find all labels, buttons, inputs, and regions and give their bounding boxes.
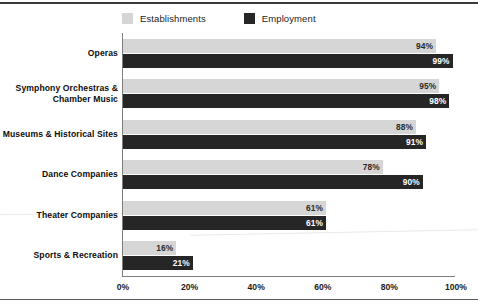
bar-establishments[interactable]: 95% bbox=[123, 79, 439, 93]
bar-slot: 95% bbox=[123, 79, 456, 93]
page-rule-bottom bbox=[0, 299, 478, 300]
x-tick-20pct: 20% bbox=[181, 282, 198, 292]
bar-group: 94%99% bbox=[123, 33, 456, 74]
bar-slot: 61% bbox=[123, 216, 456, 230]
category-label: Sports & Recreation bbox=[0, 236, 118, 277]
bar-slot: 99% bbox=[123, 54, 456, 68]
chart-legend: Establishments Employment bbox=[122, 13, 316, 24]
bar-slot: 94% bbox=[123, 39, 456, 53]
x-tick-80pct: 80% bbox=[381, 282, 398, 292]
chart-row: Operas94%99% bbox=[0, 33, 478, 74]
bar-group: 61%61% bbox=[123, 195, 456, 236]
bar-employment[interactable]: 99% bbox=[123, 54, 453, 68]
bar-employment[interactable]: 61% bbox=[123, 216, 326, 230]
x-axis-line bbox=[122, 276, 455, 277]
bar-value-label: 88% bbox=[396, 122, 416, 132]
chart-row: Dance Companies78%90% bbox=[0, 155, 478, 196]
bar-establishments[interactable]: 94% bbox=[123, 39, 436, 53]
category-label: Theater Companies bbox=[0, 195, 118, 236]
bar-establishments[interactable]: 78% bbox=[123, 160, 383, 174]
bar-value-label: 78% bbox=[363, 162, 383, 172]
bar-group: 78%90% bbox=[123, 155, 456, 196]
bar-slot: 88% bbox=[123, 120, 456, 134]
x-tick-40pct: 40% bbox=[248, 282, 265, 292]
bar-group: 88%91% bbox=[123, 114, 456, 155]
bar-slot: 78% bbox=[123, 160, 456, 174]
x-tick-60pct: 60% bbox=[314, 282, 331, 292]
bar-value-label: 61% bbox=[306, 203, 326, 213]
bar-employment[interactable]: 98% bbox=[123, 94, 449, 108]
x-tick-0pct: 0% bbox=[117, 282, 129, 292]
bar-value-label: 91% bbox=[406, 137, 426, 147]
chart-row: Museums & Historical Sites88%91% bbox=[0, 114, 478, 155]
page-rule-top bbox=[0, 2, 478, 4]
chart-row: Theater Companies61%61% bbox=[0, 195, 478, 236]
bar-employment[interactable]: 90% bbox=[123, 175, 423, 189]
bar-employment[interactable]: 91% bbox=[123, 135, 426, 149]
legend-label-establishments: Establishments bbox=[140, 13, 206, 24]
bar-value-label: 98% bbox=[429, 96, 449, 106]
chart-rows: Operas94%99%Symphony Orchestras &Chamber… bbox=[0, 33, 478, 276]
bar-value-label: 94% bbox=[416, 41, 436, 51]
bar-establishments[interactable]: 88% bbox=[123, 120, 416, 134]
bar-value-label: 90% bbox=[403, 177, 423, 187]
bar-group: 95%98% bbox=[123, 74, 456, 115]
bar-establishments[interactable]: 61% bbox=[123, 201, 326, 215]
x-tick-100pct: 100% bbox=[445, 282, 467, 292]
bar-slot: 61% bbox=[123, 201, 456, 215]
bar-value-label: 16% bbox=[156, 243, 176, 253]
legend-item-employment: Employment bbox=[244, 13, 316, 24]
category-label: Dance Companies bbox=[0, 155, 118, 196]
legend-swatch-establishments bbox=[122, 13, 133, 24]
bar-employment[interactable]: 21% bbox=[123, 256, 193, 270]
bar-value-label: 99% bbox=[433, 56, 453, 66]
bar-value-label: 95% bbox=[419, 81, 439, 91]
category-label: Operas bbox=[0, 33, 118, 74]
bar-slot: 16% bbox=[123, 241, 456, 255]
bar-slot: 98% bbox=[123, 94, 456, 108]
bar-chart: Operas94%99%Symphony Orchestras &Chamber… bbox=[0, 33, 478, 285]
bar-value-label: 21% bbox=[173, 258, 193, 268]
category-label: Museums & Historical Sites bbox=[0, 114, 118, 155]
chart-row: Symphony Orchestras &Chamber Music95%98% bbox=[0, 74, 478, 115]
legend-swatch-employment bbox=[244, 13, 255, 24]
category-label: Symphony Orchestras &Chamber Music bbox=[0, 74, 118, 115]
bar-slot: 21% bbox=[123, 256, 456, 270]
bar-establishments[interactable]: 16% bbox=[123, 241, 176, 255]
bar-group: 16%21% bbox=[123, 236, 456, 277]
legend-item-establishments: Establishments bbox=[122, 13, 206, 24]
bar-slot: 91% bbox=[123, 135, 456, 149]
legend-label-employment: Employment bbox=[262, 13, 316, 24]
bar-slot: 90% bbox=[123, 175, 456, 189]
bar-value-label: 61% bbox=[306, 218, 326, 228]
x-axis-tick-labels: 0%20%40%60%80%100% bbox=[0, 282, 478, 298]
chart-row: Sports & Recreation16%21% bbox=[0, 236, 478, 277]
